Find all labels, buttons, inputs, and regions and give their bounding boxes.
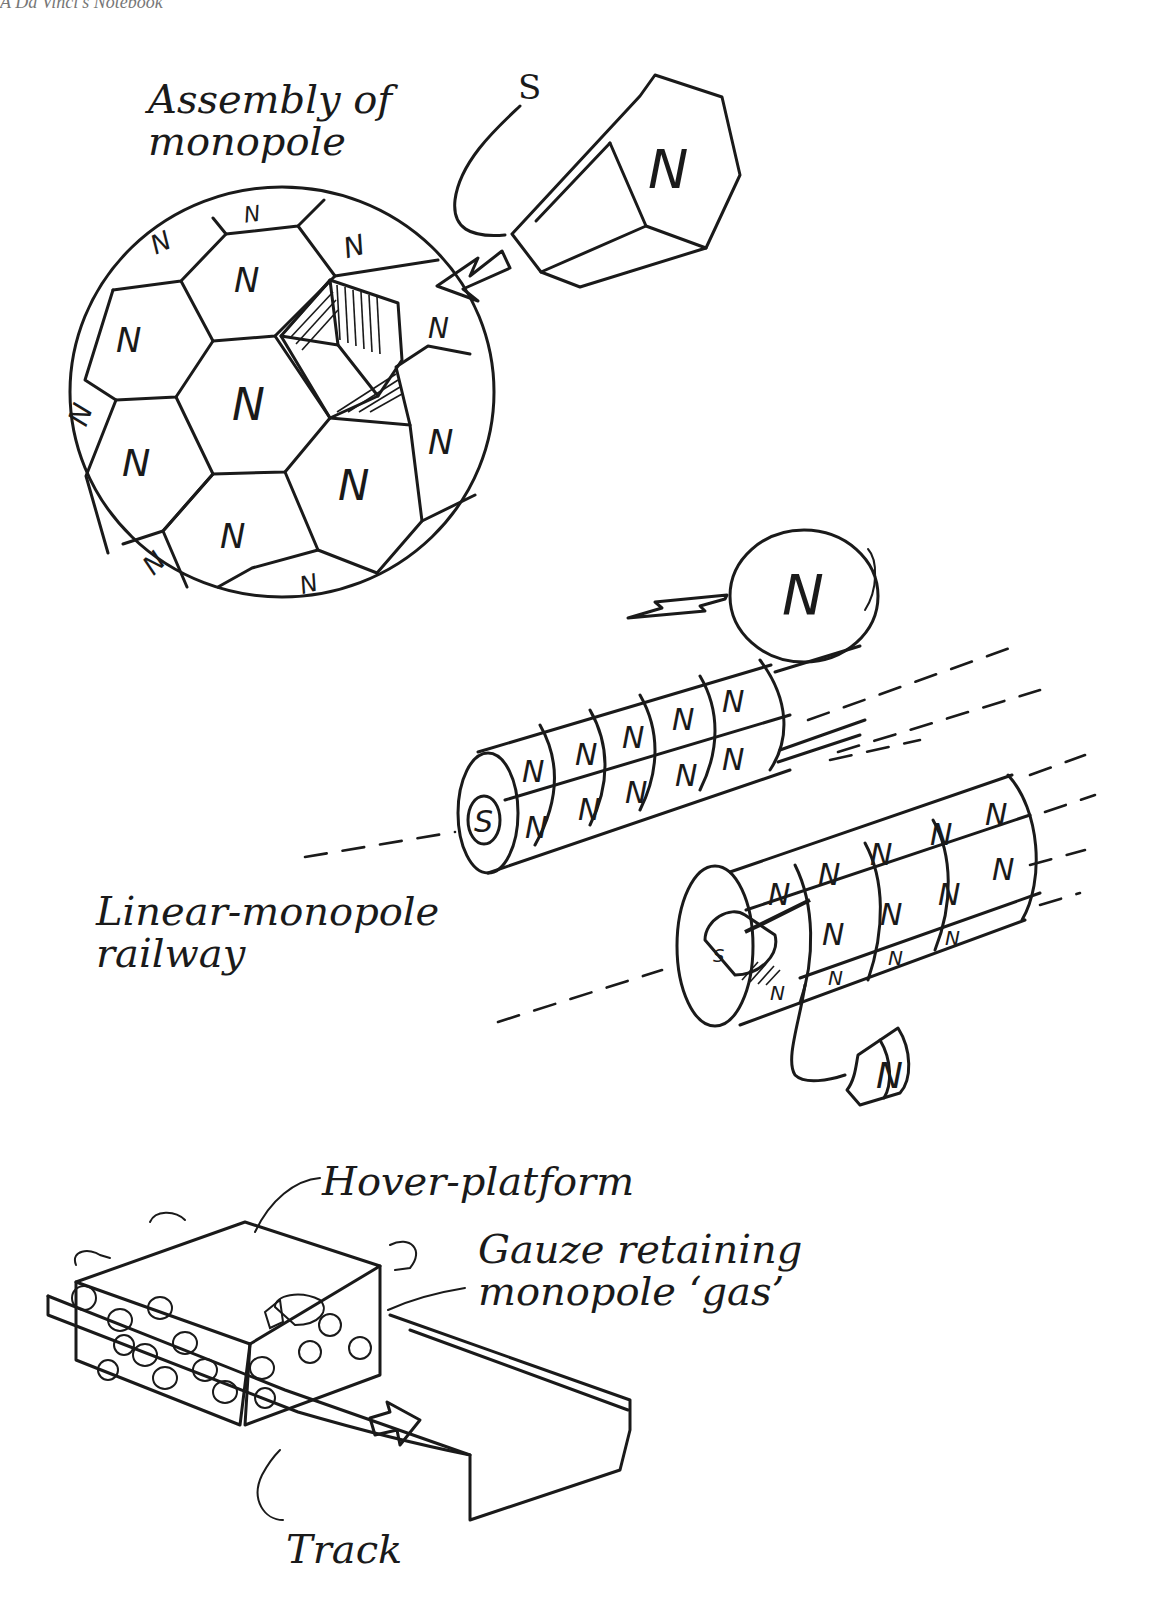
svg-text:N: N <box>116 320 141 360</box>
svg-text:N: N <box>242 201 262 228</box>
svg-text:N: N <box>62 399 100 430</box>
svg-text:N: N <box>234 260 259 300</box>
hover-platform-drawing <box>48 1178 630 1520</box>
svg-text:N: N <box>525 810 547 845</box>
svg-text:N: N <box>146 225 176 260</box>
svg-text:N: N <box>822 917 844 952</box>
svg-text:N: N <box>768 877 790 912</box>
svg-text:N: N <box>220 516 245 556</box>
svg-text:N: N <box>938 877 960 912</box>
svg-text:N: N <box>722 684 744 719</box>
svg-text:N: N <box>428 422 453 462</box>
svg-text:N: N <box>672 702 694 737</box>
svg-text:N: N <box>870 837 892 872</box>
svg-text:N: N <box>888 946 903 970</box>
svg-text:N: N <box>137 546 172 581</box>
svg-text:N: N <box>876 1055 903 1096</box>
dashed-rails <box>305 648 1095 1022</box>
insert-arrow-icon <box>437 251 510 301</box>
svg-text:N: N <box>522 754 544 789</box>
svg-text:N: N <box>828 966 843 990</box>
svg-text:N: N <box>675 758 697 793</box>
svg-text:N: N <box>578 792 600 827</box>
line-drawing: N N N N N N N N N N N N N N N <box>0 0 1155 1597</box>
svg-text:N: N <box>930 817 952 852</box>
svg-text:N: N <box>880 897 902 932</box>
svg-text:N: N <box>428 312 449 345</box>
monopole-ball-small: N <box>730 530 878 662</box>
svg-text:N: N <box>818 857 840 892</box>
svg-text:N: N <box>992 852 1014 887</box>
svg-text:N: N <box>122 441 150 485</box>
illustration-page: A Da Vinci's Notebook Assembly of monopo… <box>0 0 1155 1597</box>
svg-text:N: N <box>338 461 369 510</box>
svg-text:N: N <box>575 737 597 772</box>
svg-text:S: S <box>713 945 724 966</box>
svg-text:N: N <box>770 981 785 1005</box>
svg-text:N: N <box>625 775 647 810</box>
svg-text:N: N <box>648 138 688 201</box>
direction-arrow-icon <box>628 595 727 618</box>
monopole-segment-block: N <box>437 75 740 301</box>
svg-text:N: N <box>622 720 644 755</box>
svg-text:N: N <box>232 379 265 430</box>
svg-text:N: N <box>722 742 744 777</box>
svg-text:N: N <box>985 797 1007 832</box>
svg-text:N: N <box>945 926 960 950</box>
monopole-ball: N N N N N N N N N N N N N N <box>62 187 494 600</box>
svg-text:N: N <box>782 562 824 627</box>
monopole-cylinder-rear: S NNNNN NNNN NNNN N <box>677 775 1040 1105</box>
monopole-cylinder-front: S NNNNN NNNNN <box>458 646 865 873</box>
svg-text:N: N <box>340 228 369 265</box>
svg-text:S: S <box>474 804 493 839</box>
